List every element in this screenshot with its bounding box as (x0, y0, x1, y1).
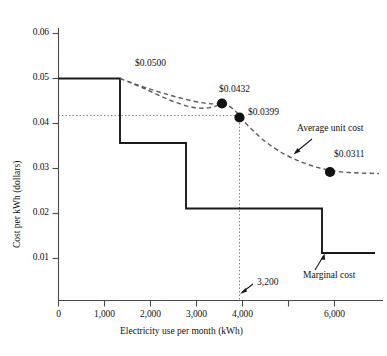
y-axis-ticks (53, 34, 59, 259)
x-tick-label-3000: 3,000 (177, 310, 217, 320)
y-tick-label-0.06: 0.06 (16, 28, 49, 38)
chart-plot-area (0, 0, 387, 356)
average-unit-cost-curve-segment-2 (222, 104, 379, 174)
label-marginal-cost: Marginal cost (303, 271, 355, 281)
x-tick-label-6000: 6,000 (315, 310, 355, 320)
axis-lines (58, 28, 383, 301)
x-tick-label-1000: 1,000 (85, 310, 125, 320)
x-tick-label-2000: 2,000 (131, 310, 171, 320)
x-tick-label-4000: 4,000 (223, 310, 263, 320)
data-point-0.0399 (234, 112, 244, 122)
x-axis-ticks (59, 301, 335, 307)
label-point-0.0399: $0.0399 (248, 108, 279, 118)
x-axis-title: Electricity use per month (kWh) (120, 327, 243, 337)
x-tick-label-0: 0 (44, 310, 74, 320)
marginal-cost-arrow-head (321, 254, 326, 260)
label-point-0.0311: $0.0311 (334, 150, 365, 160)
average-unit-cost-curve-segment-1 (120, 79, 222, 109)
label-first-block-rate: $0.0500 (135, 59, 166, 69)
label-usage-3200: 3,200 (257, 278, 278, 288)
y-tick-label-0.05: 0.05 (16, 73, 49, 83)
y-tick-label-0.04: 0.04 (16, 118, 49, 128)
y-axis-title: Cost per kWh (dollars) (13, 161, 23, 248)
label-point-0.0432: $0.0432 (219, 85, 250, 95)
chart-figure: 0.06 0.05 0.04 0.03 0.02 0.01 0 1,000 2,… (0, 0, 387, 356)
marginal-cost-step-line (59, 79, 376, 254)
data-point-0.0311 (325, 167, 335, 177)
data-point-0.0432 (217, 98, 227, 108)
y-tick-label-0.01: 0.01 (16, 253, 49, 263)
label-average-unit-cost: Average unit cost (297, 124, 363, 134)
